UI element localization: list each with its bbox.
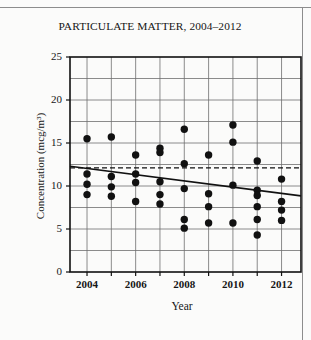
data-point — [278, 198, 285, 205]
x-axis-tick-label: 2008 — [164, 278, 204, 290]
data-point — [132, 179, 139, 186]
y-axis-tick-label: 25 — [36, 50, 62, 62]
data-point — [156, 178, 163, 185]
data-point — [205, 219, 212, 226]
data-point — [83, 181, 90, 188]
data-point — [108, 173, 115, 180]
data-point — [254, 157, 261, 164]
x-axis-tick-label: 2004 — [67, 278, 107, 290]
data-point — [229, 219, 236, 226]
data-point — [254, 216, 261, 223]
data-point — [181, 126, 188, 133]
data-point — [254, 192, 261, 199]
y-axis-tick-label: 15 — [36, 136, 62, 148]
data-point — [205, 190, 212, 197]
data-point — [278, 217, 285, 224]
data-point — [229, 181, 236, 188]
data-point — [229, 121, 236, 128]
y-axis-tick-label: 5 — [36, 222, 62, 234]
data-point — [108, 193, 115, 200]
data-point — [229, 138, 236, 145]
data-point — [254, 231, 261, 238]
data-point — [108, 133, 115, 140]
data-point — [108, 183, 115, 190]
data-point — [205, 203, 212, 210]
y-axis-tick-label: 20 — [36, 93, 62, 105]
data-point — [181, 160, 188, 167]
data-point — [254, 203, 261, 210]
x-axis-tick-label: 2006 — [116, 278, 156, 290]
data-point — [83, 170, 90, 177]
data-point — [156, 149, 163, 156]
data-point — [83, 135, 90, 142]
data-point — [278, 175, 285, 182]
data-point — [132, 151, 139, 158]
data-point — [181, 185, 188, 192]
data-point — [181, 224, 188, 231]
data-point — [181, 216, 188, 223]
x-axis-tick-label: 2010 — [213, 278, 253, 290]
data-point — [132, 198, 139, 205]
y-axis-tick-label: 0 — [36, 265, 62, 277]
data-point — [132, 170, 139, 177]
x-axis-tick-label: 2012 — [262, 278, 302, 290]
chart-page: PARTICULATE MATTER, 2004–2012 Concentrat… — [0, 0, 311, 340]
data-point — [83, 191, 90, 198]
data-point — [156, 200, 163, 207]
data-point — [156, 191, 163, 198]
data-point — [278, 206, 285, 213]
data-point — [205, 151, 212, 158]
y-axis-tick-label: 10 — [36, 179, 62, 191]
